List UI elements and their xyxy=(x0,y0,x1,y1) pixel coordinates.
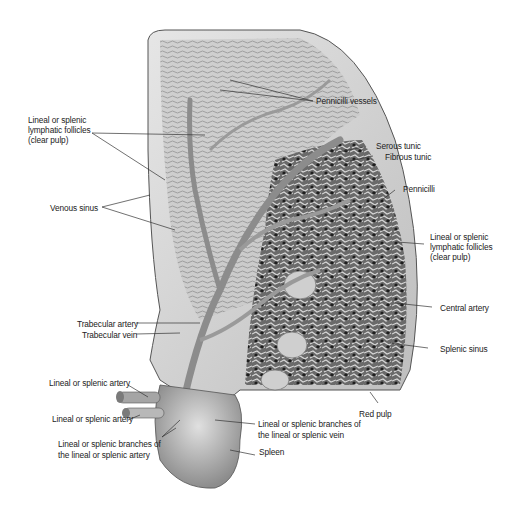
label-lymphatic-follicles-right-line2: lymphatic follicles xyxy=(430,242,493,253)
label-lymphatic-follicles-right-line1: Lineal or splenic xyxy=(430,232,488,243)
label-lymphatic-follicles-left-line2: lymphatic follicles xyxy=(28,125,91,136)
spleen-diagram: Pennicilli vessels Lineal or splenic lym… xyxy=(0,0,517,505)
label-splenic-artery-upper: Lineal or splenic artery xyxy=(49,378,130,389)
label-lymphatic-follicles-left-line3: (clear pulp) xyxy=(28,135,68,146)
label-pennicilli-vessels: Pennicilli vessels xyxy=(316,96,377,107)
label-serous-tunic: Serous tunic xyxy=(376,141,421,152)
label-branches-artery-line2: the lineal or splenic artery xyxy=(58,450,150,461)
label-lymphatic-follicles-right-line3: (clear pulp) xyxy=(430,252,470,263)
label-spleen: Spleen xyxy=(259,447,284,458)
label-trabecular-vein: Trabecular vein xyxy=(82,330,137,341)
label-branches-vein-line2: the lineal or splenic vein xyxy=(258,430,344,441)
label-trabecular-artery: Trabecular artery xyxy=(77,319,138,330)
label-pennicilli: Pennicilli xyxy=(403,184,435,195)
label-venous-sinus: Venous sinus xyxy=(50,203,98,214)
label-splenic-sinus: Splenic sinus xyxy=(440,344,488,355)
label-branches-vein-line1: Lineal or splenic branches of xyxy=(258,419,361,430)
label-red-pulp: Red pulp xyxy=(359,409,391,420)
label-splenic-artery-lower: Lineal or splenic artery xyxy=(52,414,133,425)
label-lymphatic-follicles-left-line1: Lineal or splenic xyxy=(28,115,86,126)
label-fibrous-tunic: Fibrous tunic xyxy=(385,152,431,163)
label-central-artery: Central artery xyxy=(440,303,489,314)
label-branches-artery-line1: Lineal or splenic branches of xyxy=(58,439,161,450)
